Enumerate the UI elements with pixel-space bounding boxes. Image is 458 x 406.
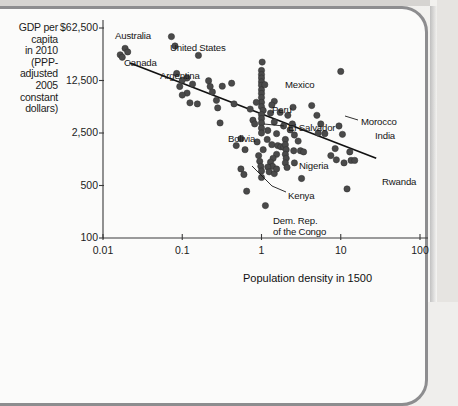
point-label: Dem. Rep.of the Congo (273, 216, 326, 237)
data-point (179, 92, 185, 98)
data-point (338, 68, 344, 74)
x-tick-label: 0.01 (93, 244, 113, 256)
data-point (352, 157, 358, 163)
data-point (341, 160, 347, 166)
data-point (264, 136, 270, 142)
data-point (262, 202, 268, 208)
data-point (219, 83, 225, 89)
data-point (309, 102, 315, 108)
point-label: United States (170, 43, 226, 54)
data-point (269, 141, 275, 147)
data-point (314, 112, 320, 118)
data-point (238, 166, 244, 172)
data-point (194, 101, 200, 107)
point-label: Rwanda (382, 177, 416, 188)
data-point (177, 83, 183, 89)
point-label: Canada (124, 58, 157, 69)
point-label-line: of the Congo (273, 227, 326, 238)
data-point (328, 152, 334, 158)
data-point (228, 80, 234, 86)
leader-line (345, 116, 358, 120)
point-label: Mexico (285, 80, 315, 91)
data-point (205, 78, 211, 84)
data-point (258, 130, 264, 136)
point-label: Kenya (288, 191, 314, 202)
x-tick-label: 100 (411, 244, 429, 256)
point-label: Bolivia (228, 134, 255, 145)
x-axis-title: Population density in 1500 (243, 272, 372, 284)
data-point (215, 105, 221, 111)
x-ticks (103, 234, 420, 240)
data-point (255, 152, 261, 158)
x-tick-label: 0.1 (175, 244, 190, 256)
data-point (189, 81, 195, 87)
point-label: Morocco (361, 117, 397, 128)
data-point (298, 175, 304, 181)
data-point (260, 147, 266, 153)
data-point (291, 160, 297, 166)
data-point (273, 131, 279, 137)
data-point (209, 89, 215, 95)
x-tick-label: 1 (259, 244, 265, 256)
data-point (271, 119, 277, 125)
data-point (295, 138, 301, 144)
point-label: Nigeria (299, 161, 328, 172)
data-point (347, 149, 353, 155)
point-label-line: Dem. Rep. (273, 216, 326, 227)
data-point (333, 157, 339, 163)
point-label: Argentina (160, 71, 200, 82)
data-point (344, 186, 350, 192)
data-point (332, 145, 338, 151)
data-point (262, 82, 268, 88)
data-point (217, 120, 223, 126)
data-point (336, 123, 342, 129)
data-point (241, 171, 247, 177)
x-tick-label: 10 (335, 244, 347, 256)
data-point (168, 33, 174, 39)
point-label: Australia (115, 31, 151, 42)
data-point (259, 59, 265, 65)
data-point (252, 121, 258, 127)
data-point (242, 147, 248, 153)
data-point (273, 166, 279, 172)
data-point (300, 149, 306, 155)
data-point (247, 106, 253, 112)
point-label: India (375, 131, 395, 142)
data-point (187, 100, 193, 106)
data-point (244, 188, 250, 194)
data-point (339, 131, 345, 137)
data-point (231, 101, 237, 107)
data-point (284, 164, 290, 170)
data-point (291, 148, 297, 154)
data-point (253, 99, 259, 105)
data-point (125, 49, 131, 55)
point-label: El Salvador (288, 123, 335, 134)
data-point (213, 97, 219, 103)
data-point (265, 127, 271, 133)
point-label: Peru (272, 105, 292, 116)
